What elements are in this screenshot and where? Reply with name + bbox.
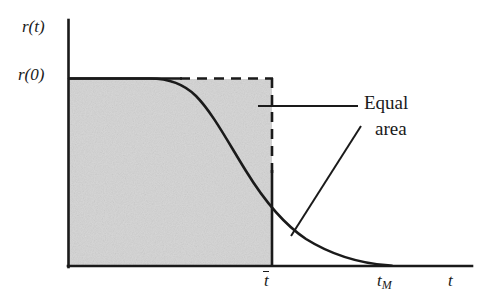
figure-equal-area-diagram: r(t) r(0) t tM t Equalarea xyxy=(0,0,485,308)
x-axis-label-tm: tM xyxy=(377,272,392,291)
annotation-line-2: area xyxy=(364,116,479,142)
shaded-region-grain-overlay xyxy=(69,79,272,266)
annotation-leader-diagonal xyxy=(291,126,361,236)
y-axis-label-rt: r(t) xyxy=(22,18,45,35)
x-axis-label-tbar: t xyxy=(263,272,270,289)
y-axis-label-r0: r(0) xyxy=(18,66,44,83)
equal-area-annotation: Equalarea xyxy=(364,90,479,141)
plot-canvas xyxy=(0,0,485,308)
tbar-overbar-glyph: t xyxy=(263,272,270,289)
annotation-line-1: Equal xyxy=(364,92,408,113)
x-axis-label-t: t xyxy=(448,272,453,289)
tm-subscript-glyph: M xyxy=(382,278,392,292)
